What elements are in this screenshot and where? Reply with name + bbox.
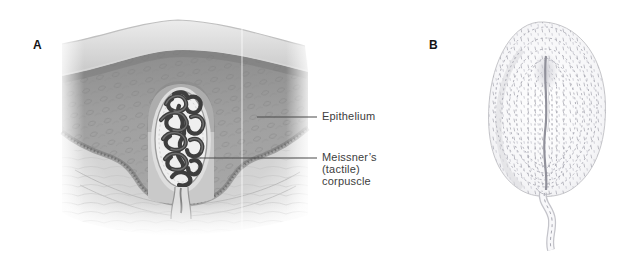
panel-a-letter: A: [33, 39, 42, 51]
nerve-fiber-stem: [536, 188, 552, 250]
figure-artwork: [0, 0, 631, 256]
bottom-fade: [56, 202, 316, 242]
panel-b-letter: B: [429, 39, 438, 51]
panel-b-illustration: [486, 18, 610, 250]
meissner-corpuscle-label: Meissner’s (tactile) corpuscle: [322, 151, 377, 187]
panel-a-illustration: [56, 8, 316, 242]
corpuscle-b-stippling: [486, 18, 610, 202]
epithelium-label: Epithelium: [322, 110, 375, 122]
figure: A B Epithelium Meissner’s (tactile) corp…: [0, 0, 631, 256]
